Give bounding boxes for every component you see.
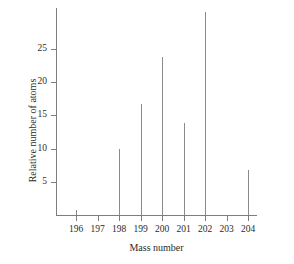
- y-tick-mark: [51, 115, 57, 116]
- y-tick-mark: [51, 49, 57, 50]
- y-tick-mark: [51, 182, 57, 183]
- peak-196: [76, 210, 77, 215]
- x-tick-mark-200: [162, 215, 163, 221]
- x-axis-title: Mass number: [56, 242, 257, 253]
- y-tick-mark: [51, 82, 57, 83]
- y-axis-title: Relative number of atoms: [27, 36, 38, 226]
- x-tick-mark-197: [98, 215, 99, 221]
- x-tick-mark-198: [119, 215, 120, 221]
- peak-204: [248, 170, 249, 215]
- x-tick-mark-201: [184, 215, 185, 221]
- peak-198: [119, 149, 120, 216]
- x-tick-mark-196: [76, 215, 77, 221]
- x-tick-mark-204: [248, 215, 249, 221]
- x-tick-mark-199: [141, 215, 142, 221]
- x-tick-mark-203: [227, 215, 228, 221]
- x-tick-mark-202: [205, 215, 206, 221]
- mass-spectrum-figure: 510152025 196197198199200201202203204 Ma…: [0, 0, 294, 264]
- peak-202: [205, 12, 206, 215]
- y-tick-mark: [51, 149, 57, 150]
- y-axis-line: [56, 8, 57, 216]
- peak-201: [184, 123, 185, 215]
- peak-200: [162, 57, 163, 215]
- x-tick-label-204: 204: [235, 224, 261, 234]
- peak-199: [141, 104, 142, 215]
